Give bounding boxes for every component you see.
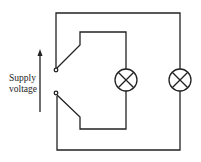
terminal-top-icon [54, 68, 58, 72]
supply-label: Supply [9, 73, 36, 84]
inner-wire-top [57, 32, 126, 69]
voltage-label: voltage [9, 84, 37, 95]
lamp-2-icon [169, 69, 191, 91]
outer-wire-top [56, 13, 180, 69]
lamp-1-icon [115, 69, 137, 91]
inner-wire-bottom [57, 91, 126, 129]
outer-wire-bottom [57, 91, 180, 150]
terminal-bottom-icon [54, 91, 58, 95]
